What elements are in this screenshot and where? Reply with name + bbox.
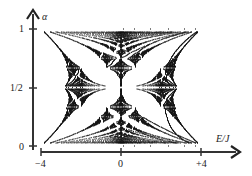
plot-area — [44, 28, 198, 146]
y-tick-half: 1/2 — [10, 82, 23, 93]
y-axis-label: α — [42, 11, 48, 22]
x-tick-plus4: +4 — [196, 158, 207, 169]
x-axis-label: E/J — [215, 133, 230, 144]
x-tick-minus4: −4 — [35, 158, 46, 169]
x-tick-0: 0 — [118, 158, 123, 169]
y-tick-1: 1 — [19, 23, 24, 34]
y-tick-0: 0 — [19, 141, 24, 152]
y-axis: 1 1/2 0 α — [10, 10, 48, 152]
hofstadter-butterfly-chart: 1 1/2 0 α −4 0 +4 E/J — [0, 0, 252, 176]
